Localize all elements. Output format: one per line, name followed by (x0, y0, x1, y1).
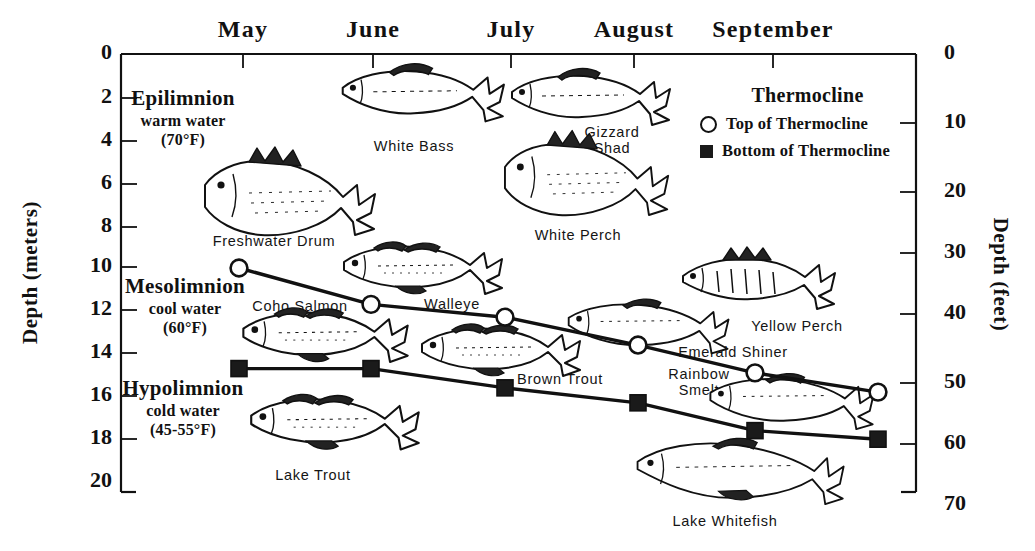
data-point-marker (231, 260, 248, 277)
fish-illustration-emerald-shiner (569, 299, 729, 353)
data-point-marker (363, 361, 379, 377)
month-ticks (243, 54, 773, 68)
data-point-marker (497, 380, 513, 396)
fish-illustration-yellow-perch (683, 247, 835, 309)
fish-illustration-gizzard-shad (512, 68, 670, 125)
data-point-marker (630, 337, 647, 354)
chart-canvas (0, 0, 1035, 551)
fish-illustration-walleye (344, 242, 502, 294)
data-point-marker (747, 423, 763, 439)
data-point-marker (747, 364, 764, 381)
data-point-marker (870, 431, 886, 447)
data-point-marker (363, 296, 380, 313)
data-point-marker (630, 395, 646, 411)
fish-illustration-freshwater-drum (205, 147, 375, 235)
fish-illustration-brown-trout (422, 324, 580, 376)
data-point-marker (870, 384, 887, 401)
fish-illustration-lake-whitefish (638, 438, 844, 504)
data-point-marker (497, 309, 514, 326)
fish-illustration-rainbow-smelt (710, 374, 873, 430)
data-point-marker (231, 361, 247, 377)
fish-illustration-white-bass (343, 64, 504, 122)
chart-figure: Depth (meters) Depth (feet) MayJuneJulyA… (0, 0, 1035, 551)
fish-illustration-lake-trout (251, 394, 418, 449)
fish-illustration-coho-salmon (243, 308, 407, 362)
fish-illustration-white-perch (505, 131, 668, 216)
